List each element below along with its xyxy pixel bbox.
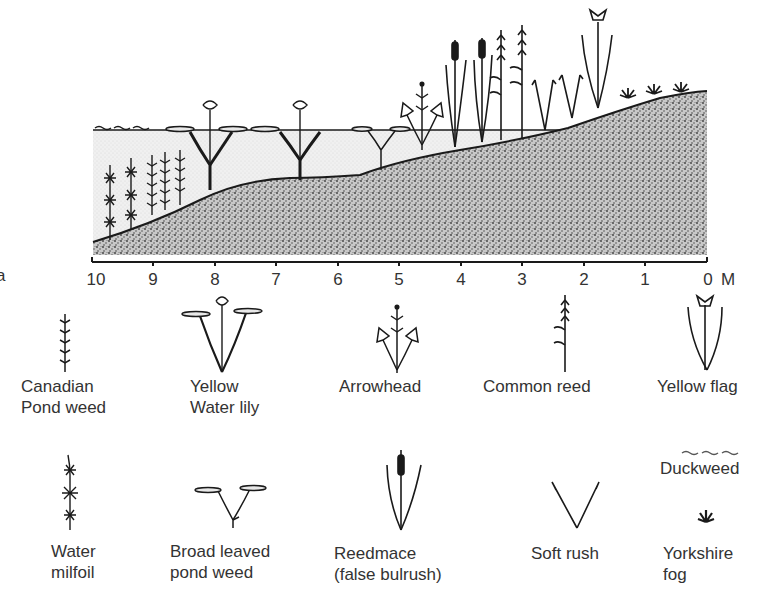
legend-label-duckweed: Duckweed: [660, 458, 739, 479]
legend-icon-reedmace: [387, 450, 421, 530]
axis-tick-1: 1: [640, 270, 649, 290]
legend-icon-arrowhead: [377, 305, 418, 373]
legend-label-yorkshire-fog: Yorkshirefog: [663, 543, 733, 585]
legend-label-water-milfoil: Watermilfoil: [51, 541, 96, 583]
common-reed-plants: [490, 25, 526, 140]
legend-icon-duckweed: [682, 452, 738, 455]
yellow-flag-plant: [582, 10, 612, 108]
legend-label-reedmace: Reedmace(false bulrush): [334, 543, 442, 585]
legend-icon-common-reed: [554, 295, 569, 372]
axis-tick-7: 7: [271, 270, 280, 290]
legend-icon-water-milfoil: [62, 455, 78, 530]
legend-icon-soft-rush: [552, 482, 599, 528]
legend-label-canadian-pond-weed: CanadianPond weed: [21, 376, 106, 418]
legend-icon-yorkshire-fog: [698, 510, 714, 522]
axis-tick-5: 5: [394, 270, 403, 290]
legend-label-broad-leaved-pond-weed: Broad leavedpond weed: [170, 541, 270, 583]
duckweed-on-surface: [95, 127, 149, 130]
axis-tick-2: 2: [579, 270, 588, 290]
axis-tick-10: 10: [87, 270, 106, 290]
axis-tick-3: 3: [517, 270, 526, 290]
legend-icon-canadian-pond-weed: [60, 314, 70, 372]
distance-axis: [92, 257, 707, 266]
pond-profile-diagram: [0, 0, 773, 589]
legend-icon-yellow-water-lily: [182, 297, 262, 372]
legend-label-yellow-water-lily: YellowWater lily: [190, 376, 259, 418]
soft-rush-plants: [532, 75, 583, 130]
legend-icon-broad-leaved-pond-weed: [195, 486, 266, 529]
legend-label-common-reed: Common reed: [483, 376, 591, 397]
edge-fragment: a: [0, 266, 5, 286]
legend-icon-yellow-flag: [688, 296, 722, 370]
axis-tick-4: 4: [456, 270, 465, 290]
legend-label-yellow-flag: Yellow flag: [657, 376, 738, 397]
axis-tick-6: 6: [333, 270, 342, 290]
legend-label-soft-rush: Soft rush: [531, 543, 599, 564]
axis-tick-0: 0: [703, 270, 712, 290]
axis-tick-8: 8: [210, 270, 219, 290]
axis-unit: M: [721, 270, 735, 290]
legend-label-arrowhead: Arrowhead: [339, 376, 421, 397]
axis-tick-9: 9: [148, 270, 157, 290]
